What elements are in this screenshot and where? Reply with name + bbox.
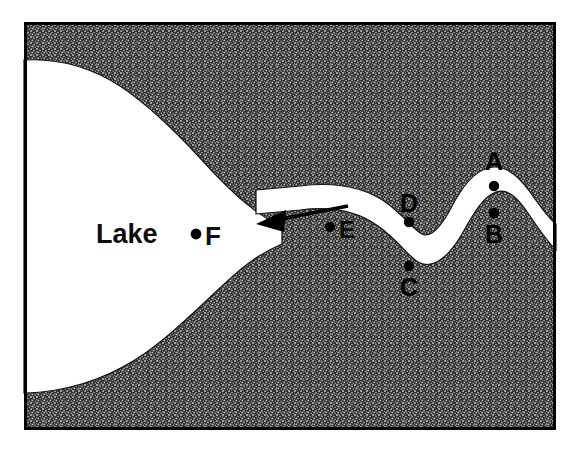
point-dot-c xyxy=(404,261,414,271)
point-label-c: C xyxy=(400,273,418,301)
point-label-e: E xyxy=(339,216,355,243)
point-dot-e xyxy=(325,222,335,232)
lake-label: Lake xyxy=(96,219,158,249)
point-dot-b xyxy=(489,208,499,218)
point-dot-f xyxy=(191,229,202,240)
point-label-b: B xyxy=(485,220,503,248)
point-dot-d xyxy=(404,217,414,227)
point-dot-a xyxy=(489,181,499,191)
point-label-d: D xyxy=(400,189,418,217)
point-label-a: A xyxy=(485,147,503,175)
river-lake-diagram: A B C D E F Lake xyxy=(0,0,580,455)
point-label-f: F xyxy=(205,221,221,251)
figure-page: A B C D E F Lake xyxy=(0,0,580,455)
